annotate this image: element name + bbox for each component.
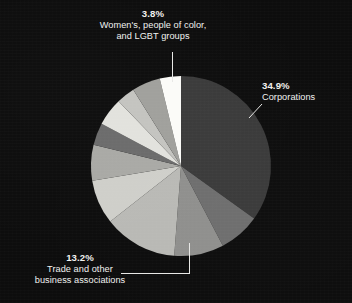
slice-label-corporations-line1: Corporations	[262, 92, 315, 104]
slice-label-trade-line1: Trade and other	[12, 264, 148, 276]
slice-label-corporations: 34.9% Corporations	[262, 80, 315, 103]
slice-label-trade-line2: business associations	[12, 275, 148, 287]
slice-label-trade: 13.2% Trade and other business associati…	[12, 252, 148, 287]
slice-label-women-poc-lgbt-line2: and LGBT groups	[86, 31, 220, 43]
slice-percent-trade: 13.2%	[12, 252, 148, 264]
slice-label-women-poc-lgbt-line1: Women's, people of color,	[86, 20, 220, 32]
slice-label-women-poc-lgbt: 3.8% Women's, people of color, and LGBT …	[86, 8, 220, 43]
pie-slices	[91, 76, 271, 256]
pie-chart-figure: 3.8% Women's, people of color, and LGBT …	[0, 0, 352, 303]
slice-percent-women-poc-lgbt: 3.8%	[86, 8, 220, 20]
slice-percent-corporations: 34.9%	[262, 80, 315, 92]
